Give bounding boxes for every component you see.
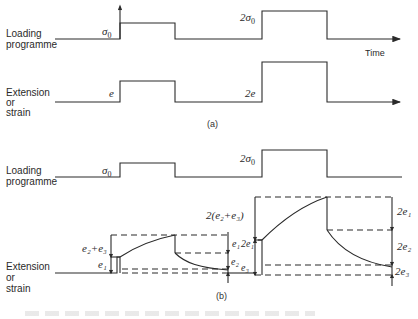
caption-a: (a) (207, 119, 218, 129)
b-pulse1-creep-label: e₂+e₃ (82, 243, 107, 254)
diagram-canvas (0, 0, 418, 319)
b-pulse2-instant-label: 2e₁ (241, 238, 254, 249)
b-loading-label-line1: Loading (6, 166, 42, 176)
a-strain-step2-label: 2e (245, 88, 255, 99)
b-pulse2-recovery-2e3: 2e₃ (395, 266, 409, 277)
b-strain-label-line2: or (6, 273, 15, 283)
a-loading-step2-label: 2σ0 (240, 12, 255, 27)
b-strain-pulse1 (55, 232, 230, 283)
b-loading-step2-label: 2σ0 (240, 153, 255, 168)
b-pulse1-recovery-e3: e₃ (241, 262, 249, 273)
b-pulse1-recovery-e1: e₁ (232, 238, 240, 249)
a-strain-label-line3: strain (6, 108, 30, 118)
b-pulse2-creep-label: 2(e₂+e₃) (206, 210, 244, 221)
time-axis-label: Time (365, 48, 385, 58)
a-loading-step1-label: σ0 (102, 26, 111, 41)
a-loading-label-line2: programme (6, 40, 57, 50)
b-pulse1-recovery-e2: e₂ (231, 256, 239, 267)
b-pulse2-recovery-2e1: 2e₁ (397, 206, 411, 217)
a-loading-label-line1: Loading (6, 29, 42, 39)
caption-b: (b) (216, 291, 227, 301)
b-loading-label-line2: programme (6, 177, 57, 187)
faint-caption-strip (25, 311, 315, 316)
b-loading-step1-label: σ0 (102, 165, 111, 180)
a-strain-trace (55, 62, 400, 102)
b-pulse1-instant-label: e₁ (98, 259, 107, 270)
b-pulse2-recovery-2e2: 2e₂ (397, 241, 411, 252)
b-strain-label-line3: strain (6, 284, 30, 294)
b-strain-label-line1: Extension (6, 262, 50, 272)
a-strain-step1-label: e (109, 88, 114, 99)
